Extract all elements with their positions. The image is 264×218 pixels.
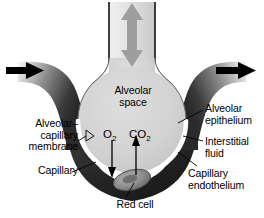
label-alveolar-capillary-membrane: Alveolar– capillary membrane xyxy=(2,118,78,153)
label-oxygen: O2 xyxy=(103,128,116,143)
label-alveolar-space: Alveolar space xyxy=(100,85,166,108)
label-capillary: Capillary xyxy=(12,165,78,177)
carbon-dioxide-subscript: 2 xyxy=(146,134,150,143)
label-alveolar-epithelium: Alveolar epithelium xyxy=(205,103,263,126)
oxygen-subscript: 2 xyxy=(112,134,116,143)
label-capillary-endothelium: Capillary endothelium xyxy=(188,168,263,191)
label-interstitial-fluid: Interstitial fluid xyxy=(205,136,263,159)
label-red-cell: Red cell xyxy=(104,199,166,211)
oxygen-symbol: O xyxy=(103,128,112,140)
carbon-dioxide-symbol: CO xyxy=(129,128,146,140)
label-carbon-dioxide: CO2 xyxy=(129,128,151,143)
alveolar-capillary-diagram: Alveolar space Alveolar– capillary membr… xyxy=(0,0,264,218)
